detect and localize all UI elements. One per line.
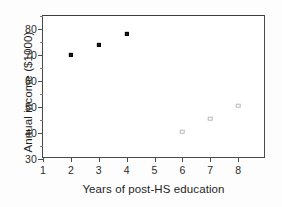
data-point — [125, 32, 129, 36]
y-tick-40 — [38, 133, 43, 134]
x-tick-label-2: 2 — [68, 164, 74, 176]
y-tick-80 — [38, 29, 43, 30]
x-tick-6 — [182, 157, 183, 162]
x-tick-label-1: 1 — [40, 164, 46, 176]
data-point — [236, 103, 241, 108]
y-minor-tick — [40, 120, 43, 121]
y-minor-tick — [40, 16, 43, 17]
chart-figure: 304050607080 12345678 Years of post-HS e… — [0, 0, 282, 207]
x-tick-5 — [155, 157, 156, 162]
x-tick-3 — [99, 157, 100, 162]
data-point — [97, 43, 101, 47]
data-point — [180, 129, 185, 134]
y-axis-title: Annual income ($1000) — [22, 17, 34, 167]
x-tick-label-7: 7 — [207, 164, 213, 176]
data-point — [69, 53, 73, 57]
y-minor-tick — [40, 68, 43, 69]
x-tick-2 — [71, 157, 72, 162]
y-minor-tick — [40, 146, 43, 147]
x-tick-label-4: 4 — [124, 164, 130, 176]
x-tick-4 — [127, 157, 128, 162]
x-tick-label-5: 5 — [152, 164, 158, 176]
y-tick-60 — [38, 81, 43, 82]
y-tick-70 — [38, 55, 43, 56]
x-tick-1 — [43, 157, 44, 162]
y-tick-50 — [38, 107, 43, 108]
x-axis-title: Years of post-HS education — [42, 183, 265, 195]
y-minor-tick — [40, 94, 43, 95]
plot-area: 304050607080 12345678 — [42, 15, 265, 158]
x-tick-label-6: 6 — [179, 164, 185, 176]
x-tick-label-8: 8 — [235, 164, 241, 176]
y-minor-tick — [40, 42, 43, 43]
x-tick-8 — [238, 157, 239, 162]
x-tick-label-3: 3 — [96, 164, 102, 176]
x-tick-7 — [210, 157, 211, 162]
data-point — [208, 116, 213, 121]
